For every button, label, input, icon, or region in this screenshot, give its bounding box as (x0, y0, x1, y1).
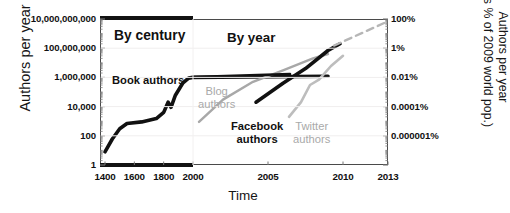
series-label-facebook-line1: Facebook (231, 120, 283, 133)
series-label-facebook-authors: Facebook authors (231, 120, 283, 145)
series-label-twitter-line1: Twitter (293, 120, 330, 133)
section-label-century: By century (114, 28, 185, 43)
series-label-book-authors: Book authors (112, 74, 184, 86)
series-label-facebook-line2: authors (231, 133, 283, 146)
series-label-blog-authors: Blog authors (198, 85, 235, 110)
series-label-blog-line1: Blog (198, 85, 235, 98)
section-label-year: By year (227, 30, 275, 45)
series-label-blog-line2: authors (198, 98, 235, 111)
y-axis-title-right-line1: Authors per year (495, 0, 510, 141)
series-label-twitter-line2: authors (293, 133, 330, 146)
series-label-twitter-authors: Twitter authors (293, 120, 330, 145)
